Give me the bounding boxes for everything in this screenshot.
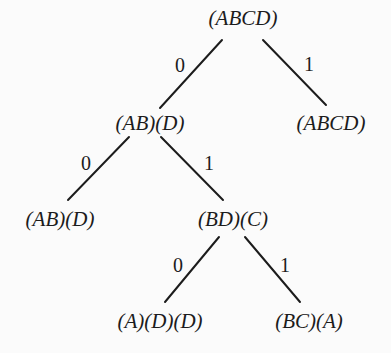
node-01: (BD)(C) xyxy=(198,207,268,231)
edge-root-n0 xyxy=(160,40,222,108)
edge-label-root-1: 1 xyxy=(304,54,314,74)
node-0: (AB)(D) xyxy=(116,111,185,135)
tree-edges xyxy=(0,0,391,353)
edge-label-n01-1: 1 xyxy=(280,255,290,275)
edge-label-root-0: 0 xyxy=(175,55,185,75)
node-011: (BC)(A) xyxy=(275,309,343,333)
edge-label-n0-0: 0 xyxy=(81,153,91,173)
edge-n0-n00 xyxy=(68,137,129,200)
tree-diagram: (ABCD) (AB)(D) (ABCD) (AB)(D) (BD)(C) (A… xyxy=(0,0,391,353)
edge-root-n1 xyxy=(263,40,326,105)
node-010: (A)(D)(D) xyxy=(117,309,202,333)
node-1: (ABCD) xyxy=(297,111,366,135)
edge-label-n0-1: 1 xyxy=(204,153,214,173)
edge-n01-n011 xyxy=(245,237,300,302)
node-00: (AB)(D) xyxy=(26,207,95,231)
node-root: (ABCD) xyxy=(209,6,278,30)
edge-label-n01-0: 0 xyxy=(173,255,183,275)
